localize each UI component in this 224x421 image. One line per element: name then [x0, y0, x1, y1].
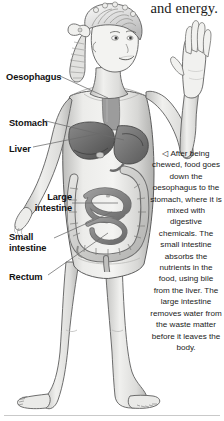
label-small-intestine: Small intestine [9, 232, 46, 254]
caption-triangle-icon: ◁ [162, 149, 168, 158]
label-liver: Liver [9, 144, 31, 155]
side-braid [70, 32, 86, 82]
caption-text: After being chewed, food goes down the o… [150, 149, 222, 352]
legs [18, 262, 160, 409]
label-rectum: Rectum [9, 272, 43, 283]
bottom-divider [4, 415, 220, 416]
page-header-text: and energy. [150, 0, 218, 17]
label-stomach: Stomach [9, 118, 48, 129]
caption-block: ◁After being chewed, food goes down the … [150, 148, 222, 353]
liver-organ [69, 122, 115, 159]
label-large-intestine: Large intestine [28, 192, 72, 214]
gallbladder-organ [96, 152, 104, 158]
label-oesophagus: Oesophagus [6, 72, 61, 83]
head [68, 2, 142, 99]
digestive-system-figure-page: and energy. Oesophagus Stomach Liver Lar… [0, 0, 224, 421]
